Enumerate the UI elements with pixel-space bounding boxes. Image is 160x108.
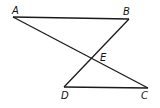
geometry-diagram: A B E D C bbox=[0, 0, 160, 108]
label-e: E bbox=[100, 52, 107, 63]
segment-bd bbox=[64, 19, 129, 87]
segment-dc bbox=[64, 87, 148, 88]
segment-ac bbox=[13, 17, 148, 88]
label-b: B bbox=[123, 6, 130, 17]
segment-ab bbox=[13, 17, 129, 19]
label-c: C bbox=[141, 90, 148, 101]
label-d: D bbox=[61, 90, 69, 101]
label-a: A bbox=[11, 5, 19, 16]
